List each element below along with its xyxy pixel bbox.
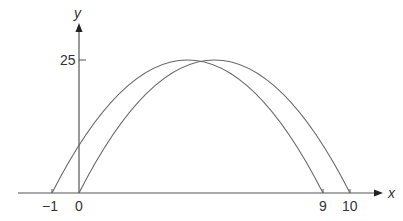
- x-tick-label-10: 10: [342, 198, 358, 214]
- y-axis-label: y: [73, 5, 82, 21]
- x-tick-label-9: 9: [319, 198, 327, 214]
- x-tick-label-neg1: −1: [42, 198, 58, 214]
- y-axis-arrow-icon: [76, 23, 83, 32]
- curve-x-plus-1-9-minus-x: [52, 60, 323, 193]
- x-axis-label: x: [387, 185, 396, 201]
- x-axis-arrow-icon: [374, 190, 383, 197]
- y-tick-label-25: 25: [60, 52, 76, 68]
- curve-x-10-minus-x: [79, 60, 350, 193]
- x-tick-label-0: 0: [75, 198, 83, 214]
- chart-canvas: y x 25 −1 0 9 10: [0, 0, 403, 221]
